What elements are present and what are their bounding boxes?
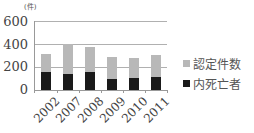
x-tick [79,90,80,93]
y-unit-label: (件) [24,1,36,11]
y-tick-200: 200 [2,60,28,73]
legend-item-approved: 認定件数 [183,55,241,72]
bar-deaths [85,72,95,90]
x-tick [34,90,35,93]
gridline-600 [34,21,167,22]
y-axis [34,21,35,90]
gridline-400 [34,44,167,45]
x-tick [57,90,58,93]
bar-deaths [63,74,73,90]
y-tick-0: 0 [2,83,28,96]
legend-swatch-gray [183,60,190,67]
y-tick-600: 600 [2,15,28,28]
bar-deaths [129,78,139,90]
legend-label: 認定件数 [193,55,241,72]
x-tick [123,90,124,93]
legend-label: 内死亡者 [193,75,241,92]
legend-item-deaths: 内死亡者 [183,75,241,92]
bar-deaths [107,79,117,91]
bar-deaths [41,72,51,90]
x-tick [145,90,146,93]
gridline-200 [34,67,167,68]
bar-deaths [151,77,161,90]
x-tick [167,90,168,93]
y-tick-400: 400 [2,38,28,51]
legend-swatch-black [183,80,190,87]
x-tick [101,90,102,93]
